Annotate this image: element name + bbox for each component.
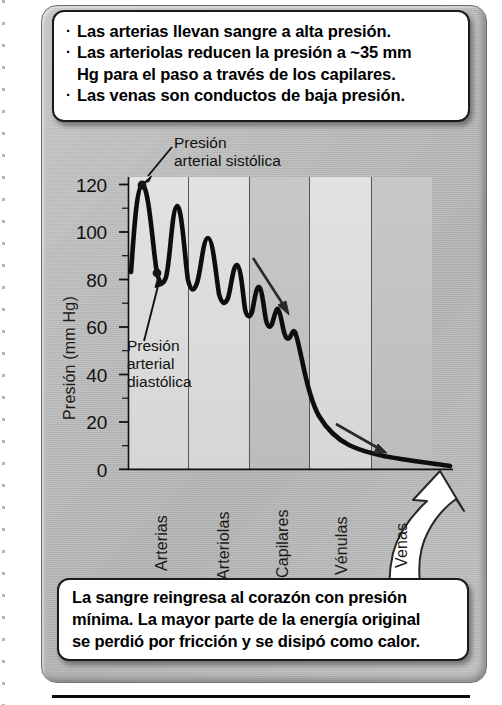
pressure-chart: Presión (mm Hg) (41, 128, 485, 583)
bottom-callout-line-3: se perdió por fricción y se disipó como … (72, 631, 457, 653)
chart-canvas (41, 128, 485, 583)
y-tick-label-0: 0 (61, 461, 107, 480)
y-tick-label-40: 40 (61, 366, 107, 385)
systolic-annotation-line-1: Presión (174, 134, 227, 151)
callout-bullet-2-cont: Hg para el paso a través de los capilare… (66, 64, 458, 85)
y-tick-label-20: 20 (61, 413, 107, 432)
callout-bullet-3: · Las venas son conductos de baja presió… (66, 85, 458, 106)
footer-rule (52, 695, 470, 698)
y-tick-label-120: 120 (61, 176, 107, 195)
bullet-1-line-1: Las arterias llevan sangre a alta presió… (77, 21, 458, 42)
diastolic-annotation-line-2: arterial (127, 355, 174, 372)
x-category-arterias: Arterias (153, 515, 171, 571)
diastolic-annotation-line-1: Presión (127, 337, 180, 354)
bottom-callout-line-1: La sangre reingresa al corazón con presi… (72, 587, 457, 609)
diastolic-annotation-line-3: diastólica (127, 373, 192, 390)
bullet-3-line-1: Las venas son conductos de baja presión. (77, 85, 458, 106)
systolic-annotation-line-2: arterial sistólica (174, 152, 281, 169)
bullet-2-line-1: Las arteriolas reducen la presión a ~35 … (77, 42, 458, 63)
y-tick-label-60: 60 (61, 318, 107, 337)
bottom-callout-line-2: mínima. La mayor parte de la energía ori… (72, 609, 457, 631)
bullet-icon: · (66, 42, 77, 62)
x-category-venulas: Vénulas (333, 516, 351, 575)
y-tick-label-80: 80 (61, 271, 107, 290)
callout-bullet-2: · Las arteriolas reducen la presión a ~3… (66, 42, 458, 63)
y-tick-label-100: 100 (61, 223, 107, 242)
systolic-leader-line (148, 147, 172, 176)
page-binding-marks (2, 0, 5, 705)
x-category-arteriolas: Arteriolas (215, 511, 233, 580)
bullet-2-line-2: Hg para el paso a través de los capilare… (77, 64, 458, 85)
bullet-icon: · (66, 85, 77, 105)
bottom-callout-box: La sangre reingresa al corazón con presi… (57, 578, 469, 661)
diastolic-marker-dot (153, 269, 162, 278)
x-category-capilares: Capilares (274, 510, 292, 579)
top-callout-box: · Las arterias llevan sangre a alta pres… (52, 10, 470, 122)
figure-root: · Las arterias llevan sangre a alta pres… (0, 0, 502, 705)
x-category-venas: Venas (393, 523, 411, 568)
bullet-icon: · (66, 21, 77, 41)
y-axis-ticks (119, 185, 129, 470)
callout-bullet-1: · Las arterias llevan sangre a alta pres… (66, 21, 458, 42)
